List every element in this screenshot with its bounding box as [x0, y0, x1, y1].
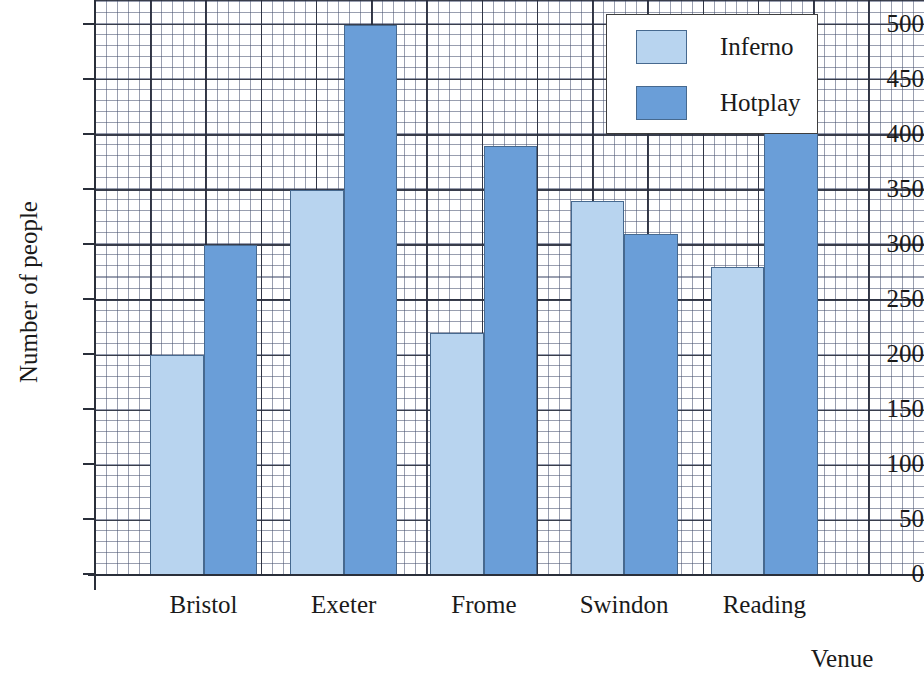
x-axis-line	[88, 574, 924, 576]
legend-label-inferno: Inferno	[720, 33, 794, 61]
bar-swindon-inferno	[571, 201, 625, 575]
y-axis-tick	[83, 518, 96, 520]
y-axis-tick-label: 250	[850, 286, 924, 311]
y-axis-tick	[83, 298, 96, 300]
bar-reading-hotplay	[764, 113, 818, 575]
bar-reading-inferno	[711, 267, 765, 575]
bar-exeter-hotplay	[344, 25, 398, 575]
x-axis-label-reading: Reading	[674, 592, 854, 617]
y-axis-tick	[83, 78, 96, 80]
y-axis-tick-label: 350	[850, 176, 924, 201]
y-axis-tick-label: 50	[850, 506, 924, 531]
legend-label-hotplay: Hotplay	[720, 89, 801, 117]
y-axis-tick	[83, 23, 96, 25]
y-axis-line	[94, 0, 96, 590]
y-axis-tick-label: 450	[850, 66, 924, 91]
y-axis-tick-label: 0	[850, 561, 924, 586]
y-axis-tick-label: 100	[850, 451, 924, 476]
y-axis-tick-label: 400	[850, 121, 924, 146]
y-axis-tick	[83, 133, 96, 135]
bar-bristol-inferno	[150, 355, 204, 575]
bar-frome-inferno	[430, 333, 484, 575]
bar-chart-figure: 050100150200250300350400450500 BristolEx…	[0, 0, 924, 676]
bar-exeter-inferno	[290, 190, 344, 575]
chart-legend: Inferno Hotplay	[606, 14, 818, 134]
y-axis-tick	[83, 573, 96, 575]
y-axis-tick-label: 200	[850, 341, 924, 366]
y-axis-tick	[83, 408, 96, 410]
y-axis-tick	[83, 463, 96, 465]
legend-entry-hotplay: Hotplay	[607, 77, 817, 129]
y-axis-tick-label: 300	[850, 231, 924, 256]
y-axis-title: Number of people	[15, 177, 43, 407]
y-axis-tick	[83, 353, 96, 355]
x-axis-title: Venue	[760, 645, 924, 673]
y-axis-tick	[83, 188, 96, 190]
y-axis-tick	[83, 243, 96, 245]
bar-swindon-hotplay	[624, 234, 678, 575]
bar-bristol-hotplay	[204, 245, 258, 575]
bar-frome-hotplay	[484, 146, 538, 575]
hotplay-swatch-icon	[636, 86, 687, 120]
legend-entry-inferno: Inferno	[607, 21, 817, 73]
inferno-swatch-icon	[636, 30, 687, 64]
y-axis-tick-label: 500	[850, 11, 924, 36]
y-axis-tick-label: 150	[850, 396, 924, 421]
